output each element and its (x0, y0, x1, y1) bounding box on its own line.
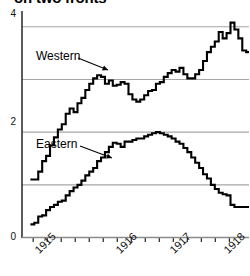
series-line-western (30, 23, 249, 180)
y-tick-label-2: 2 (2, 117, 16, 127)
series-annotation-eastern: Eastern (36, 138, 77, 150)
annotation-arrows (78, 58, 112, 159)
y-tick-label-4: 4 (2, 9, 16, 19)
y-tick-label-0: 0 (2, 232, 16, 242)
chart-figure: on two fronts 4 2 0 1915 1916 1917 1918 … (0, 0, 250, 276)
series-annotation-western: Western (36, 50, 80, 62)
